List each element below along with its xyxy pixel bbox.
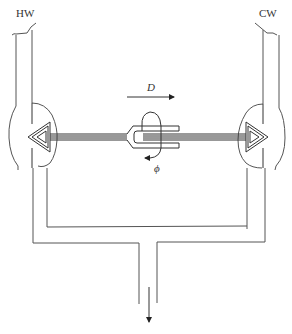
cold-valve-seat — [246, 122, 268, 152]
displacement-label: D — [146, 81, 155, 93]
rotation-indicator — [142, 112, 161, 158]
cold-water-label: CW — [259, 7, 277, 19]
rotation-label: ϕ — [154, 162, 160, 174]
cold-valve-body — [238, 104, 285, 170]
hot-valve-seat — [28, 122, 50, 152]
mixing-manifold — [33, 168, 265, 243]
connecting-rod-right — [143, 134, 246, 140]
outlet-pipe — [139, 242, 157, 304]
hot-water-inlet-pipe — [12, 23, 36, 106]
cold-water-inlet-pipe — [255, 23, 279, 108]
connecting-rod-left — [50, 134, 127, 140]
mixing-valve-diagram: HW CW — [0, 0, 292, 334]
fork-coupling — [127, 126, 179, 148]
hot-water-label: HW — [16, 7, 35, 19]
